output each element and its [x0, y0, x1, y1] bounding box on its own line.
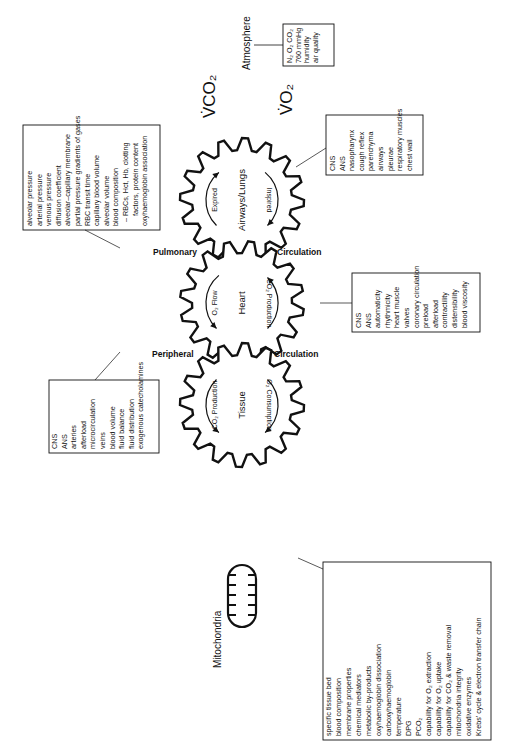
tissue-box-item: metabolic by-products [364, 665, 373, 736]
diagram-canvas: Atmosphere N₂ O₂ CO₂760 mmHghumidityair … [0, 0, 515, 750]
pulmonary-connector [85, 230, 120, 248]
peripheral-box-items: CNSANSarteriesafterloadmicrocirculationv… [50, 361, 145, 449]
tissue-box-item: blood composition [334, 678, 343, 736]
heart-box-item: valves [402, 307, 411, 328]
tissue-box-item: Krebs' cycle & electron transfer chain [474, 618, 483, 736]
pulmonary-label: Pulmonary [153, 247, 197, 257]
tissue-box-item: oxyhaemoglobin dissociation [374, 644, 383, 736]
pulmonary-circulation-label: Circulation [277, 247, 321, 257]
heart-box-item: heart muscle [392, 287, 401, 328]
pulmonary-box-item: RBC transit time [83, 174, 92, 226]
peripheral-connector [95, 352, 120, 380]
tissue-gear: TissueCO₂ ProductionO₂ Consumption [180, 343, 304, 467]
pulmonary-box-item: alveolar–capillary membrane [63, 134, 72, 226]
tissue-box-item: capability for O₂ extraction [424, 652, 433, 736]
pulmonary-box-item: alveolar volume [102, 176, 111, 226]
pulmonary-box-item: arterial pressure [35, 174, 44, 226]
pulmonary-box-item: blood composition [111, 168, 120, 226]
mitochondria-icon [228, 565, 256, 627]
tissue-box-item: carboxyhaemoglobin [384, 670, 393, 736]
heart-box-item: contractility [440, 292, 449, 328]
tissue-box-item: capability for CO₂ & waste removal [444, 625, 453, 736]
airways-lungs-gear: Airways/LungsExpiredInspired [180, 138, 304, 262]
peripheral-box-item: CNS [50, 434, 59, 449]
atmosphere-label: Atmosphere [241, 16, 252, 70]
airways-connector [296, 148, 326, 167]
heart-arc-label-right: CO₂ Production [266, 279, 273, 328]
tissue-box-item: capability for O₂ uptake [434, 662, 443, 736]
heart-arc-label-left: O₂ Flow [211, 290, 218, 316]
peripheral-box-item: exogenous catecholamines [136, 361, 145, 449]
heart-box-item: rhythmicity [383, 293, 392, 328]
tissue-box-item: membrane properties [344, 667, 353, 736]
airways-box-item: nasopharynx [347, 129, 356, 171]
pulmonary-box-item: partial pressure gradients of gases [73, 115, 82, 226]
pulmonary-box-item: oxyhaemoglobin association [140, 136, 149, 226]
airways-box-item: chest wall [405, 139, 414, 171]
peripheral-box-item: fluid distribution [127, 399, 136, 449]
heart-box-item: preload [421, 304, 430, 328]
heart-box-items: CNSANSautomaticityrhythmicityheart muscl… [354, 266, 469, 328]
airways-box-items: CNSANSnasopharynxcough reflexparenchymaa… [328, 108, 414, 171]
pulmonary-box-items: alveolar pressurearterial pressurevenous… [25, 115, 149, 226]
heart-box-item: CNS [354, 313, 363, 328]
tissue-box-item: chemical mediators [354, 674, 363, 736]
tissue-box-items: specific tissue bedblood compositionmemb… [324, 618, 483, 736]
airways-box-item: cough reflex [357, 131, 366, 171]
airways-box-item: airways [376, 146, 385, 171]
airways-box-item: ANS [338, 156, 347, 171]
airways-box-item: parenchyma [366, 131, 375, 171]
tissue-connector [298, 558, 323, 569]
vco2-label: V̇CO₂ [200, 75, 219, 118]
heart-box-item: ANS [364, 313, 373, 328]
peripheral-box-item: veins [98, 432, 107, 449]
airways-box-item: pleurae [386, 147, 395, 171]
pulmonary-box-item: venous pressure [44, 173, 53, 226]
pulmonary-box-item: diffusion coefficient [54, 165, 63, 226]
peripheral-box-item: blood volume [108, 406, 117, 449]
lungs-arc-label-left: Expired [211, 188, 219, 212]
tissue-arc-label-right: O₂ Consumption [265, 379, 273, 430]
peripheral-box-item: fluid balance [117, 409, 126, 449]
heart-gear-label: Heart [236, 291, 247, 315]
tissue-arc-label-left: CO₂ Production [211, 381, 218, 430]
peripheral-box-item: microcirculation [88, 399, 97, 449]
heart-box-item: distensibility [450, 289, 459, 328]
peripheral-box-item: ANS [60, 434, 69, 449]
vo2-label: V̇O₂ [277, 84, 296, 115]
tissue-gear-label: Tissue [236, 391, 247, 419]
peripheral-label: Peripheral [152, 349, 194, 359]
mitochondria-label: Mitochondria [212, 610, 223, 668]
tissue-box-item: temperature [394, 697, 403, 736]
atmosphere-item: air quality [311, 32, 320, 63]
pulmonary-box-item: factors, protein content [131, 143, 140, 226]
heart-box-item: afterload [431, 300, 440, 328]
gears-group: Airways/LungsExpiredInspiredHeartO₂ Flow… [180, 138, 304, 467]
lungs-gear-label: Airways/Lungs [236, 169, 247, 231]
atmosphere-items: N₂ O₂ CO₂760 mmHghumidityair quality [285, 28, 320, 63]
tissue-box-item: oxidative enzymes [464, 676, 473, 736]
airways-box-item: respiratory muscles [395, 108, 404, 171]
pulmonary-box-item: alveolar pressure [25, 171, 34, 226]
lungs-arc-label-right: Inspired [265, 188, 273, 213]
heart-box-item: automaticity [373, 289, 382, 328]
peripheral-box-item: arteries [69, 425, 78, 449]
pulmonary-box-item: capillary blood volume [92, 155, 101, 226]
tissue-box-item: mitochondria integrity [454, 667, 463, 736]
peripheral-box-item: afterload [79, 421, 88, 449]
tissue-box-item: PCO₂ [414, 717, 423, 736]
tissue-box-item: specific tissue bed [324, 677, 333, 736]
heart-box-item: coronary circulation [412, 266, 421, 328]
heart-box-item: blood viscosity [460, 281, 469, 328]
tissue-box-item: DPG [404, 720, 413, 736]
peripheral-circulation-label: Circulation [274, 349, 318, 359]
pulmonary-box-item: – RBCs, Hct, Hb, clotting [121, 143, 130, 226]
airways-box-item: CNS [328, 156, 337, 171]
